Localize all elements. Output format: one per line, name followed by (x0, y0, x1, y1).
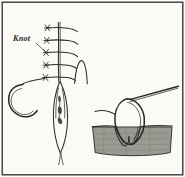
knot-label-text: Knot (12, 34, 31, 43)
skin-tissue-block (93, 127, 172, 156)
illustration-canvas: Knot (0, 0, 185, 177)
suture-illustration-figure: Knot (0, 0, 185, 177)
